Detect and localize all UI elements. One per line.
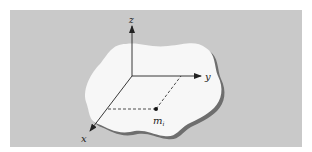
mass-point: [154, 107, 158, 111]
y-axis-label: y: [204, 71, 211, 82]
mass-label-m: m: [153, 115, 162, 126]
z-axis-label: z: [128, 15, 134, 25]
x-axis-label: x: [81, 133, 87, 144]
coordinate-system-diagram: z y x mi: [0, 0, 312, 152]
mass-label-subscript: i: [162, 120, 164, 127]
